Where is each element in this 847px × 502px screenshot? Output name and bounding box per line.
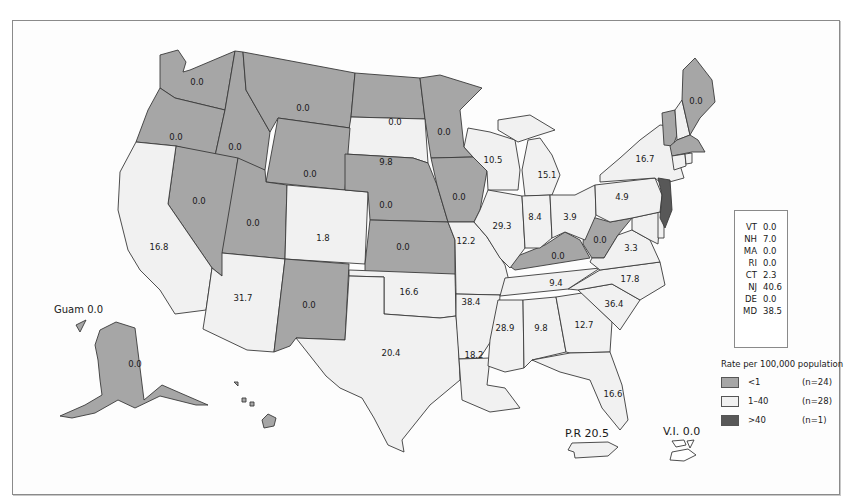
legend-swatch-high <box>721 415 739 426</box>
label-mn: 0.0 <box>437 127 451 137</box>
ne-row: RI0.0 <box>735 257 787 269</box>
ne-row: CT2.3 <box>735 269 787 281</box>
ne-row: VT0.0 <box>735 221 787 233</box>
label-ms: 28.9 <box>496 323 515 333</box>
territory-vi-shape <box>670 440 696 461</box>
label-wy: 0.0 <box>303 169 317 179</box>
state-ct <box>672 154 686 170</box>
label-ky: 0.0 <box>551 251 565 261</box>
label-wi: 10.5 <box>484 155 503 165</box>
legend-swatch-mid <box>721 396 739 407</box>
label-nm: 0.0 <box>302 300 316 310</box>
territory-guam-shape <box>76 320 86 332</box>
label-ne: 0.0 <box>379 200 393 210</box>
label-id: 0.0 <box>228 142 242 152</box>
label-mo: 12.2 <box>457 236 476 246</box>
legend-swatch-low <box>721 377 739 388</box>
northeast-states-table: VT0.0 NH7.0 MA0.0 RI0.0 CT2.3 NJ40.6 DE0… <box>734 210 788 348</box>
label-guam: Guam 0.0 <box>54 304 103 315</box>
label-ny: 16.7 <box>636 154 655 164</box>
label-tn: 9.4 <box>549 278 563 288</box>
label-az: 31.7 <box>234 293 253 303</box>
legend-title: Rate per 100,000 population <box>721 359 843 369</box>
label-ar: 38.4 <box>462 297 481 307</box>
label-me: 0.0 <box>689 96 703 106</box>
state-nd <box>351 73 425 119</box>
label-nd: 0.0 <box>388 117 402 127</box>
label-va: 3.3 <box>624 243 638 253</box>
label-la: 18.2 <box>465 350 484 360</box>
label-ca: 16.8 <box>150 242 169 252</box>
label-oh: 3.9 <box>563 212 577 222</box>
label-fl: 16.6 <box>604 389 623 399</box>
label-sd: 9.8 <box>379 157 393 167</box>
label-ok: 16.6 <box>400 287 419 297</box>
label-nc: 17.8 <box>621 274 640 284</box>
label-il: 29.3 <box>493 221 512 231</box>
ne-row: DE0.0 <box>735 293 787 305</box>
label-pa: 4.9 <box>615 192 629 202</box>
map-legend: Rate per 100,000 population <1 (n=24) 1–… <box>721 359 843 433</box>
label-in: 8.4 <box>528 212 542 222</box>
label-mi: 15.1 <box>538 170 557 180</box>
label-virgin-islands: V.I. 0.0 <box>663 425 700 438</box>
legend-item-low: <1 (n=24) <box>721 376 843 388</box>
label-ia: 0.0 <box>452 192 466 202</box>
us-map <box>0 0 847 502</box>
state-co <box>285 185 368 264</box>
legend-item-mid: 1–40 (n=28) <box>721 395 843 407</box>
label-puerto-rico: P.R 20.5 <box>565 427 609 440</box>
state-hi <box>234 382 276 428</box>
state-ak <box>60 322 208 418</box>
legend-item-high: >40 (n=1) <box>721 414 843 426</box>
label-or: 0.0 <box>169 132 183 142</box>
label-ak: 0.0 <box>128 359 142 369</box>
label-sc: 36.4 <box>605 299 624 309</box>
state-ri <box>685 153 692 164</box>
label-ga: 12.7 <box>575 320 594 330</box>
label-co: 1.8 <box>316 233 330 243</box>
ne-row: NJ40.6 <box>735 281 787 293</box>
label-tx: 20.4 <box>382 348 401 358</box>
label-mt: 0.0 <box>296 103 310 113</box>
ne-row: MA0.0 <box>735 245 787 257</box>
ne-row: NH7.0 <box>735 233 787 245</box>
territory-pr-shape <box>568 442 618 458</box>
label-wv: 0.0 <box>593 235 607 245</box>
label-nv: 0.0 <box>192 196 206 206</box>
state-vt <box>662 110 677 146</box>
label-ut: 0.0 <box>246 218 260 228</box>
label-al: 9.8 <box>534 323 548 333</box>
label-ks: 0.0 <box>396 242 410 252</box>
label-wa: 0.0 <box>190 77 204 87</box>
state-wy <box>266 118 350 190</box>
ne-row: MD38.5 <box>735 305 787 317</box>
